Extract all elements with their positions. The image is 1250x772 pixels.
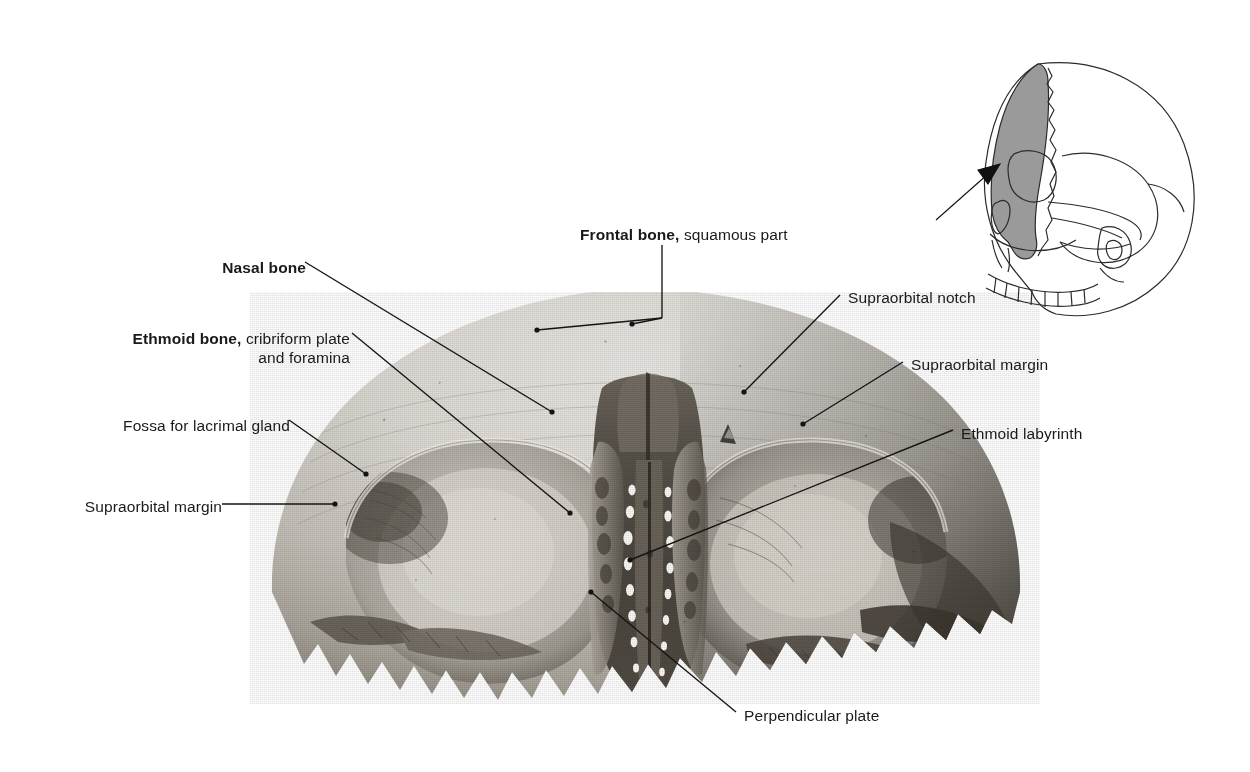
label-nasal-bone: Nasal bone	[0, 258, 306, 277]
label-supraorbital-notch: Supraorbital notch	[848, 288, 976, 307]
label-ethmoid-bone-bold: Ethmoid bone,	[133, 330, 242, 347]
speckle-texture	[250, 292, 1040, 704]
label-ethmoid-bone-plain: cribriform plate	[241, 330, 350, 347]
label-ethmoid-bone: Ethmoid bone, cribriform plate and foram…	[0, 329, 350, 367]
label-frontal-bone-bold: Frontal bone,	[580, 226, 679, 243]
label-supraorbital-margin-left-text: Supraorbital margin	[85, 498, 222, 515]
label-ethmoid-labyrinth: Ethmoid labyrinth	[961, 424, 1082, 443]
label-nasal-bone-bold: Nasal bone	[222, 259, 306, 276]
label-supraorbital-notch-text: Supraorbital notch	[848, 289, 976, 306]
label-supraorbital-margin-right: Supraorbital margin	[911, 355, 1048, 374]
label-perpendicular-plate-text: Perpendicular plate	[744, 707, 879, 724]
label-fossa-for-lacrimal-gland-text: Fossa for lacrimal gland	[123, 417, 290, 434]
anatomy-figure: Frontal bone, squamous part Nasal bone E…	[0, 0, 1250, 772]
label-supraorbital-margin-left: Supraorbital margin	[0, 497, 222, 516]
label-supraorbital-margin-right-text: Supraorbital margin	[911, 356, 1048, 373]
label-ethmoid-labyrinth-text: Ethmoid labyrinth	[961, 425, 1082, 442]
label-frontal-bone-plain: squamous part	[679, 226, 787, 243]
label-fossa-for-lacrimal-gland: Fossa for lacrimal gland	[0, 416, 290, 435]
label-ethmoid-bone-line2: and foramina	[0, 348, 350, 367]
orientation-arrow	[936, 164, 1000, 220]
frontal-bone-specimen	[250, 292, 1040, 704]
label-perpendicular-plate: Perpendicular plate	[744, 706, 879, 725]
label-frontal-bone-squamous-part: Frontal bone, squamous part	[580, 225, 900, 244]
